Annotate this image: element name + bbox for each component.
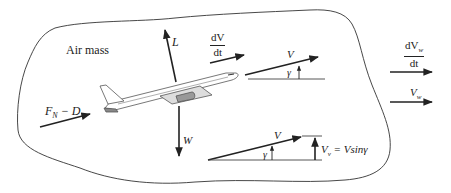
gamma-label-upper: γ — [287, 68, 291, 78]
vertical-velocity-label: Vv = Vsinγ — [321, 144, 368, 158]
wind-acceleration-label: dVw dt — [404, 40, 424, 69]
wind-accel-d-v: dV — [405, 39, 418, 51]
weight-label: W — [183, 135, 192, 146]
wind-acceleration-numerator: dVw — [404, 40, 424, 57]
wind-velocity-subscript: w — [417, 93, 422, 101]
wind-accel-subscript: w — [418, 46, 423, 54]
acceleration-numerator: dV — [210, 32, 225, 46]
velocity-arrow-lower — [208, 137, 301, 160]
velocity-label-lower: V — [274, 130, 281, 141]
acceleration-denominator: dt — [213, 46, 222, 59]
air-mass-force-diagram: Air mass L W FN − D dV dt V γ V γ Vv = V… — [0, 0, 451, 193]
wind-velocity-label: Vw — [410, 87, 421, 101]
aircraft-illustration — [100, 73, 238, 112]
wind-acceleration-denominator: dt — [410, 57, 419, 70]
wind-velocity-symbol: V — [410, 86, 417, 98]
gamma-label-lower: γ — [263, 150, 267, 160]
vv-symbol: V — [321, 143, 328, 155]
lift-label: L — [172, 36, 179, 48]
thrust-minus-drag-label: FN − D — [45, 105, 80, 120]
minus-drag-text: − D — [58, 104, 81, 118]
diagram-graphics — [0, 0, 451, 193]
air-mass-label: Air mass — [66, 44, 109, 56]
velocity-arrow-upper — [245, 57, 318, 75]
vv-equation: = Vsinγ — [331, 143, 368, 155]
acceleration-label: dV dt — [210, 32, 225, 58]
velocity-label-upper: V — [287, 49, 294, 60]
